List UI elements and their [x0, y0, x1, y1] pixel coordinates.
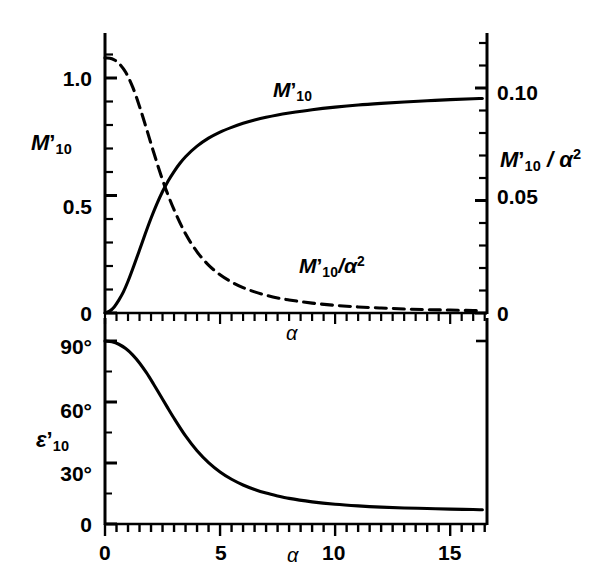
curve-epsilon10 — [105, 341, 482, 510]
upper-left-axis-title: M’10 — [31, 132, 72, 157]
curve-label-dashed: M’10/α2 — [299, 255, 365, 280]
upper-left-tick-0.5: 0.5 — [36, 196, 92, 217]
lower-y-tick-0: 0 — [30, 514, 92, 535]
axes-layer — [105, 33, 487, 536]
lower-x-tick-0: 0 — [99, 542, 111, 563]
lower-y-tick-30: 30° — [30, 463, 92, 484]
lower-x-tick-10: 10 — [322, 542, 345, 563]
upper-right-tick-0.10: 0.10 — [497, 82, 538, 103]
lower-y-axis-title: ε’10 — [36, 429, 69, 454]
lower-x-axis-title: α — [287, 545, 298, 565]
figure-container: 1.0 0.5 0 M’10 0.10 0.05 0 M’10 / α2 M’1… — [0, 0, 604, 583]
lower-x-tick-15: 15 — [438, 542, 461, 563]
lower-x-tick-5: 5 — [215, 542, 227, 563]
curves-layer — [105, 58, 482, 510]
upper-right-tick-0: 0 — [497, 303, 509, 324]
upper-left-tick-0: 0 — [36, 303, 92, 324]
upper-left-tick-1.0: 1.0 — [36, 68, 92, 89]
curve-m10 — [105, 98, 482, 313]
upper-right-tick-0.05: 0.05 — [497, 186, 538, 207]
upper-x-axis-title: α — [286, 323, 297, 343]
curve-label-solid: M’10 — [273, 79, 312, 104]
lower-y-tick-60: 60° — [30, 400, 92, 421]
lower-y-tick-90: 90° — [30, 336, 92, 357]
upper-right-axis-title: M’10 / α2 — [500, 147, 581, 173]
